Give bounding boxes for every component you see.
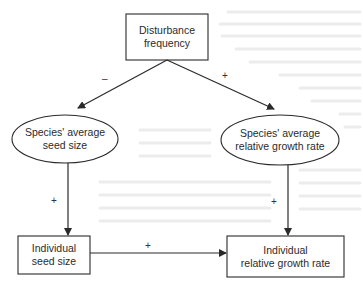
edge-disturbance-to-species-seed: [78, 60, 167, 108]
individual-rgr-label: Individual relative growth rate: [227, 236, 344, 277]
label-line: Individual: [32, 242, 76, 255]
individual-seed-size-label: Individual seed size: [18, 236, 90, 274]
disturbance-frequency-label: Disturbance frequency: [126, 14, 208, 60]
label-line: seed size: [43, 139, 87, 152]
species-seed-size-label: Species' average seed size: [12, 115, 118, 163]
sign-disturbance-to-rgr: +: [222, 71, 228, 81]
label-line: relative growth rate: [241, 257, 330, 270]
edge-disturbance-to-species-rgr: [167, 60, 274, 109]
label-line: Species' average: [240, 127, 320, 140]
label-line: Disturbance: [139, 24, 195, 37]
sign-disturbance-to-seed: –: [102, 74, 108, 84]
sign-rgr-to-individual-rgr: +: [271, 197, 277, 207]
label-line: seed size: [32, 255, 76, 268]
label-line: frequency: [144, 37, 190, 50]
species-rgr-label: Species' average relative growth rate: [221, 115, 339, 165]
label-line: Species' average: [25, 126, 105, 139]
label-line: Individual: [263, 244, 307, 257]
sign-seed-to-individual-seed: +: [51, 196, 57, 206]
sign-individual-seed-to-individual-rgr: +: [145, 241, 151, 251]
label-line: relative growth rate: [235, 140, 324, 153]
